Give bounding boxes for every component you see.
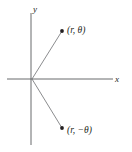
y-axis-label: y [33,5,37,14]
point-lower-dot [60,126,64,130]
ray-lower [32,79,62,128]
point-lower-label: (r, −θ) [67,126,92,136]
ray-upper [32,31,62,79]
point-upper-label: (r, θ) [67,26,85,36]
polar-coordinate-diagram: y x (r, θ) (r, −θ) [0,0,132,152]
x-axis-label: x [115,75,119,84]
diagram-canvas [0,0,132,152]
point-upper-dot [60,29,64,33]
